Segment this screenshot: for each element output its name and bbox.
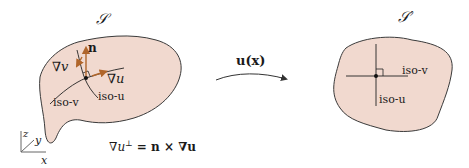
mapping-arrow: [216, 74, 286, 80]
mapping-arrow-group: u(x): [216, 53, 286, 80]
iso-u-label-left: iso-u: [98, 90, 125, 103]
equation-sup: ⊥: [125, 139, 133, 148]
y-axis: [21, 140, 34, 152]
left-surface: 𝒮 n ∇v ∇u iso-v iso-u: [40, 10, 182, 143]
left-surface-title: 𝒮: [96, 10, 112, 28]
iso-v-label-left: iso-v: [53, 96, 80, 109]
iso-u-label-right: iso-u: [379, 93, 406, 106]
coordinate-axes: z y x: [21, 128, 48, 167]
diagram-canvas: 𝒮 n ∇v ∇u iso-v iso-u u(x) 𝒮′ iso-v iso-…: [0, 0, 469, 168]
iso-v-label-right: iso-v: [402, 64, 429, 77]
z-axis-label: z: [22, 128, 29, 139]
grad-v-label: ∇v: [52, 59, 69, 74]
equation: ∇u⊥ = n × ∇u: [109, 139, 196, 154]
x-axis-label: x: [41, 154, 48, 167]
mapping-label: u(x): [236, 53, 266, 68]
y-axis-label: y: [34, 134, 42, 147]
surface-point: [84, 76, 88, 80]
mapped-point: [374, 74, 378, 78]
equation-rhs: = n × ∇u: [133, 140, 197, 154]
right-surface-blob: [334, 37, 452, 131]
equation-lhs: ∇u: [109, 140, 125, 154]
normal-label: n: [88, 41, 97, 55]
right-surface: 𝒮′ iso-v iso-u: [334, 8, 452, 131]
grad-u-label: ∇u: [107, 71, 124, 86]
equation-text: ∇u⊥ = n × ∇u: [109, 139, 196, 154]
right-surface-title: 𝒮′: [398, 8, 414, 26]
